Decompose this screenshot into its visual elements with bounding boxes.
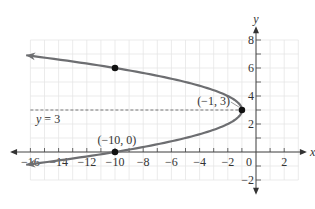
- y-axis-label: y: [252, 12, 259, 26]
- y-axis-arrow-down: [253, 188, 259, 195]
- x-tick-label: −10: [106, 155, 125, 169]
- y-tick-label: 2: [248, 117, 254, 131]
- vertex-label: (−1, 3): [197, 94, 230, 108]
- point-marker: [239, 107, 246, 114]
- x-axis-arrow-left: [10, 149, 17, 155]
- y-tick-label: 6: [248, 61, 254, 75]
- x-tick-label: −6: [165, 155, 178, 169]
- y-tick-label: 4: [248, 89, 254, 103]
- point-marker: [112, 65, 119, 72]
- x-tick-label: −4: [193, 155, 206, 169]
- y-tick-label: 8: [248, 33, 254, 47]
- x-tick-label: 0: [246, 155, 252, 169]
- x-intercept-label: (−10, 0): [98, 133, 137, 147]
- x-tick-label: 2: [281, 155, 287, 169]
- parabola-graph: −16−14−12−10−8−6−4−202−22468 (−1, 3) (−1…: [0, 0, 315, 209]
- x-tick-label: −16: [21, 155, 40, 169]
- y-tick-label: −2: [241, 173, 254, 187]
- symmetry-label: y = 3: [35, 112, 60, 126]
- x-axis-label: x: [309, 145, 315, 159]
- x-tick-label: −8: [137, 155, 150, 169]
- x-axis-arrow-right: [300, 149, 307, 155]
- point-marker: [112, 149, 119, 156]
- x-tick-label: −2: [221, 155, 234, 169]
- axes: [10, 26, 307, 195]
